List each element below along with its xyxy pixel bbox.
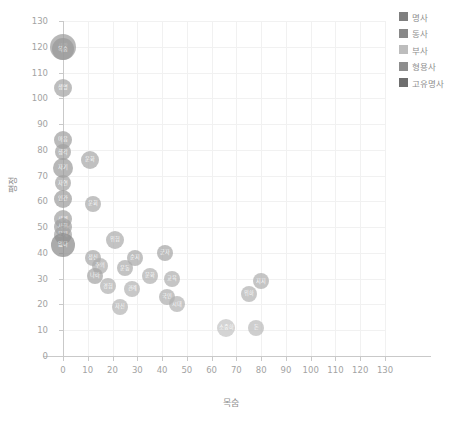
y-tick-mark [59, 98, 63, 99]
gridline-vertical [360, 21, 361, 356]
data-point-bubble[interactable]: 인간 [54, 190, 72, 208]
x-tick-mark [360, 357, 361, 361]
data-point-label: 마음 [58, 137, 68, 142]
data-point-label: 위하 [244, 291, 254, 296]
data-point-bubble[interactable]: 시대 [169, 296, 185, 312]
x-tick-label: 60 [206, 365, 217, 375]
data-point-bubble[interactable]: 운회 [85, 196, 101, 212]
gridline-vertical [236, 21, 237, 356]
gridline-vertical [212, 21, 213, 356]
data-point-bubble[interactable]: 운동 [117, 260, 133, 276]
x-tick-label: 130 [377, 365, 393, 375]
legend-swatch-icon [399, 12, 408, 21]
data-point-bubble[interactable]: 소중하 [217, 319, 235, 337]
data-point-label: 소중하 [219, 325, 233, 330]
bubble-chart: 0102030405060708090100110120130010203040… [0, 0, 461, 425]
data-point-label: 나라 [90, 273, 100, 278]
data-point-label: 운동 [120, 266, 130, 271]
legend-item[interactable]: 부사 [399, 44, 461, 55]
data-point-label: 지지 [256, 279, 266, 284]
y-tick-label: 30 [22, 274, 48, 284]
x-tick-mark [63, 357, 64, 361]
gridline-horizontal [63, 21, 385, 22]
legend-item[interactable]: 고유명사 [399, 77, 461, 88]
x-tick-label: 110 [327, 365, 343, 375]
data-point-label: 관계 [128, 286, 138, 291]
y-tick-label: 60 [22, 196, 48, 206]
y-tick-label: 110 [22, 68, 48, 78]
data-point-bubble[interactable]: 자신 [112, 299, 128, 315]
x-tick-label: 40 [157, 365, 168, 375]
x-tick-mark [212, 357, 213, 361]
y-axis-title: 평정 [6, 155, 19, 215]
gridline-vertical [311, 21, 312, 356]
y-tick-label: 10 [22, 325, 48, 335]
legend-swatch-icon [399, 78, 408, 87]
legend-label: 명사 [412, 11, 428, 23]
legend-item[interactable]: 형용사 [399, 61, 461, 72]
gridline-vertical [335, 21, 336, 356]
y-tick-mark [59, 21, 63, 22]
gridline-horizontal [63, 124, 385, 125]
data-point-label: 생명 [58, 85, 68, 90]
data-point-bubble[interactable]: 군자 [157, 245, 173, 261]
gridline-vertical [187, 21, 188, 356]
data-point-label: 자연 [58, 181, 68, 186]
y-tick-mark [59, 304, 63, 305]
data-point-bubble[interactable]: 목숨 [52, 38, 74, 60]
legend-label: 동사 [412, 27, 428, 39]
gridline-horizontal [63, 47, 385, 48]
data-point-bubble[interactable]: 위험 [106, 231, 124, 249]
data-point-label: 없다 [58, 242, 68, 247]
x-tick-mark [162, 357, 163, 361]
data-point-bubble[interactable]: 생명 [54, 79, 72, 97]
data-point-bubble[interactable]: 위하 [241, 286, 257, 302]
legend-item[interactable]: 동사 [399, 28, 461, 39]
x-tick-label: 50 [181, 365, 192, 375]
y-tick-label: 70 [22, 171, 48, 181]
x-tick-mark [385, 357, 386, 361]
legend: 명사동사부사형용사고유명사 [399, 11, 461, 94]
x-tick-label: 80 [256, 365, 267, 375]
y-tick-label: 50 [22, 222, 48, 232]
data-point-label: 문화 [145, 273, 155, 278]
legend-item[interactable]: 명사 [399, 11, 461, 22]
gridline-vertical [162, 21, 163, 356]
data-point-bubble[interactable]: 문화 [142, 268, 158, 284]
legend-swatch-icon [399, 62, 408, 71]
data-point-bubble[interactable]: 교육 [164, 271, 180, 287]
gridline-horizontal [63, 150, 385, 151]
x-tick-label: 30 [132, 365, 143, 375]
y-tick-label: 40 [22, 248, 48, 258]
gridline-vertical [88, 21, 89, 356]
y-tick-label: 0 [22, 351, 48, 361]
x-tick-mark [137, 357, 138, 361]
data-point-bubble[interactable]: 없다 [51, 233, 75, 257]
data-point-bubble[interactable]: 지지 [253, 273, 269, 289]
data-point-bubble[interactable]: 경험 [100, 278, 116, 294]
data-point-label: 위험 [110, 237, 120, 242]
legend-label: 부사 [412, 44, 428, 56]
data-point-bubble[interactable]: 돈 [248, 320, 264, 336]
data-point-label: 운화 [85, 157, 95, 162]
data-point-bubble[interactable]: 운화 [81, 151, 99, 169]
x-tick-label: 70 [231, 365, 242, 375]
x-tick-mark [335, 357, 336, 361]
data-point-label: 목숨 [58, 47, 68, 52]
gridline-horizontal [63, 201, 385, 202]
data-point-label: 자기 [58, 165, 68, 170]
y-tick-mark [59, 124, 63, 125]
x-tick-label: 90 [281, 365, 292, 375]
legend-label: 형용사 [412, 60, 436, 72]
y-tick-label: 100 [22, 93, 48, 103]
x-tick-mark [261, 357, 262, 361]
y-tick-mark [59, 330, 63, 331]
y-tick-label: 80 [22, 145, 48, 155]
y-tick-mark [59, 279, 63, 280]
gridline-horizontal [63, 98, 385, 99]
data-point-label: 군자 [160, 250, 170, 255]
gridline-vertical [385, 21, 386, 356]
x-tick-mark [88, 357, 89, 361]
data-point-bubble[interactable]: 관계 [124, 281, 140, 297]
legend-swatch-icon [399, 29, 408, 38]
